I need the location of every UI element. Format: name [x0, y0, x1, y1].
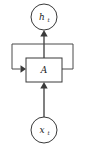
input-node: x t — [31, 117, 57, 143]
cell-node: A — [26, 58, 62, 82]
output-node: h t — [31, 4, 57, 30]
cell-label: A — [40, 65, 48, 75]
cell-to-output-arrowhead — [40, 30, 47, 37]
input-symbol: x — [39, 125, 44, 135]
input-to-cell-edge — [40, 82, 47, 117]
recurrent-loop-arrowhead — [21, 65, 27, 72]
output-symbol: h — [39, 12, 45, 22]
input-to-cell-arrowhead — [40, 82, 47, 89]
diagram-canvas: A h t x t — [0, 0, 87, 147]
rnn-cell-diagram: A h t x t — [0, 0, 87, 147]
